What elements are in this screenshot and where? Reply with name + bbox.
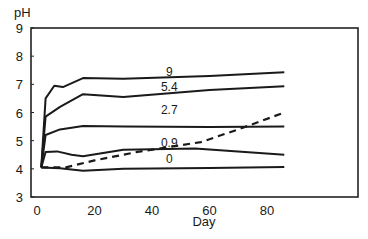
y-tick-label: 8 xyxy=(16,49,23,64)
x-tick-label: 80 xyxy=(260,203,274,218)
y-tick-label: 3 xyxy=(16,190,23,205)
series-label: 2.7 xyxy=(161,103,178,117)
x-tick-label: 20 xyxy=(87,203,101,218)
series-label: 9 xyxy=(166,65,173,79)
series-labels: 95.42.70.90 xyxy=(161,65,178,166)
series-label: 0 xyxy=(166,152,173,166)
y-tick-label: 7 xyxy=(16,77,23,92)
plot-frame xyxy=(31,28,358,197)
series-line-0 xyxy=(41,167,284,171)
y-tick-label: 6 xyxy=(16,106,23,121)
x-axis-label: Day xyxy=(192,214,216,229)
x-tick-label: 40 xyxy=(145,203,159,218)
plot-border xyxy=(31,28,358,197)
axis-ticks: 3456789020406080 xyxy=(16,21,274,218)
y-tick-label: 5 xyxy=(16,134,23,149)
y-tick-label: 4 xyxy=(16,162,23,177)
line-chart: 3456789020406080 95.42.70.90 pH Day xyxy=(0,0,368,239)
series-label: 5.4 xyxy=(161,80,178,94)
series-label: 0.9 xyxy=(161,136,178,150)
y-tick-label: 9 xyxy=(16,21,23,36)
x-tick-label: 0 xyxy=(33,203,40,218)
y-axis-label: pH xyxy=(14,5,31,20)
